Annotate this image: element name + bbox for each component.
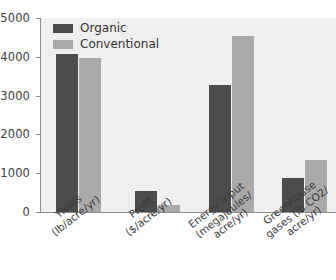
legend-item: Organic (53, 21, 159, 36)
y-tick-label: 3000 (0, 89, 30, 103)
y-tick-label: 1000 (0, 166, 30, 180)
y-tick-label: 4000 (0, 50, 30, 64)
legend-item: Conventional (53, 37, 159, 52)
legend-label: Organic (80, 22, 127, 35)
bar-group (189, 18, 263, 212)
y-tick-label: 2000 (0, 127, 30, 141)
legend-label: Conventional (80, 38, 159, 51)
legend-swatch-icon (53, 40, 73, 49)
legend-swatch-icon (53, 24, 73, 33)
x-axis-category-labels: Yields(lb/acre/yr)Profit($/acre/yr)Energ… (0, 212, 336, 280)
bar-organic-1 (56, 54, 78, 212)
y-tick-label: 5000 (0, 11, 30, 25)
bar-group (262, 18, 336, 212)
legend: OrganicConventional (53, 21, 159, 53)
bar-chart: 010002000300040005000 OrganicConventiona… (0, 0, 336, 280)
